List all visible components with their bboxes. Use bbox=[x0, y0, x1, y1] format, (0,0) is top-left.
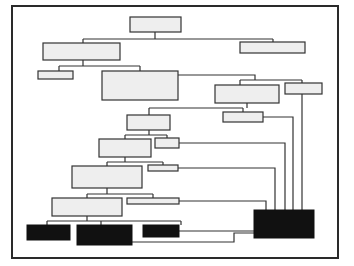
node-box bbox=[52, 198, 122, 216]
connector-line bbox=[83, 32, 273, 43]
node-box bbox=[155, 138, 179, 148]
diagram-nodes bbox=[27, 17, 322, 245]
connector-line bbox=[178, 75, 302, 85]
node-box bbox=[215, 85, 279, 103]
connector-line bbox=[179, 201, 266, 210]
node-box bbox=[223, 112, 263, 122]
node-box bbox=[43, 43, 120, 60]
connector-line bbox=[47, 216, 181, 225]
node-box bbox=[148, 165, 178, 171]
node-box bbox=[127, 198, 179, 204]
node-box bbox=[72, 166, 142, 188]
dark-node-box bbox=[77, 225, 132, 245]
dark-node-box bbox=[254, 210, 314, 238]
dark-node-box bbox=[27, 225, 70, 240]
node-box bbox=[130, 17, 181, 32]
node-box bbox=[38, 71, 73, 79]
node-box bbox=[127, 115, 170, 130]
connector-line bbox=[178, 168, 275, 210]
connector-line bbox=[87, 188, 153, 198]
dark-node-box bbox=[143, 225, 179, 237]
connector-line bbox=[179, 143, 285, 210]
node-box bbox=[285, 83, 322, 94]
node-box bbox=[99, 139, 151, 157]
connector-line bbox=[59, 60, 140, 71]
node-box bbox=[102, 71, 178, 100]
tree-diagram bbox=[0, 0, 354, 266]
node-box bbox=[240, 42, 305, 53]
connector-line bbox=[263, 117, 293, 210]
